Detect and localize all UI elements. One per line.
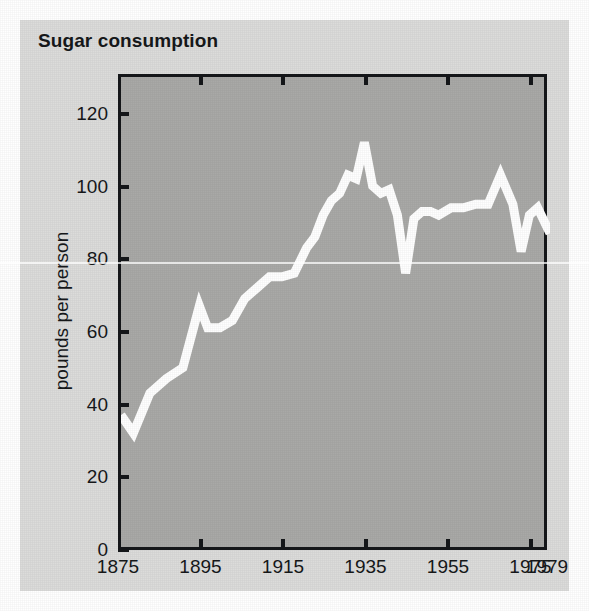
x-tick-mark-top-1935 — [364, 74, 368, 85]
chart-title: Sugar consumption — [38, 30, 218, 52]
y-tick-mark-0 — [118, 548, 129, 552]
x-tick-mark-top-1955 — [446, 74, 450, 85]
x-tick-mark-top-1915 — [281, 74, 285, 85]
y-tick-mark-80 — [118, 257, 129, 261]
x-tick-label-1935: 1935 — [344, 556, 386, 578]
y-tick-mark-60 — [118, 330, 129, 334]
x-tick-label-1955: 1955 — [427, 556, 469, 578]
x-tick-mark-1895 — [199, 539, 203, 550]
y-tick-label-100: 100 — [52, 176, 108, 198]
x-tick-mark-1935 — [364, 539, 368, 550]
x-tick-label-1915: 1915 — [262, 556, 304, 578]
y-tick-mark-40 — [118, 403, 129, 407]
x-tick-label-1875: 1875 — [97, 556, 139, 578]
x-tick-mark-1955 — [446, 539, 450, 550]
figure-page: Sugar consumption pounds per person 0204… — [0, 0, 589, 611]
sugar-consumption-line — [121, 142, 550, 433]
x-tick-mark-top-1975 — [529, 74, 533, 85]
x-tick-mark-top-1895 — [199, 74, 203, 85]
y-tick-mark-100 — [118, 185, 129, 189]
y-tick-label-40: 40 — [52, 394, 108, 416]
x-tick-label-1979: 1979 — [526, 556, 568, 578]
x-tick-mark-1915 — [281, 539, 285, 550]
y-tick-label-20: 20 — [52, 466, 108, 488]
y-tick-mark-20 — [118, 475, 129, 479]
data-line-svg — [121, 77, 550, 553]
y-tick-label-120: 120 — [52, 103, 108, 125]
y-tick-label-80: 80 — [52, 248, 108, 270]
y-tick-mark-120 — [118, 112, 129, 116]
plot-area — [118, 74, 547, 550]
y-tick-label-60: 60 — [52, 321, 108, 343]
x-tick-mark-1975 — [529, 539, 533, 550]
x-tick-label-1895: 1895 — [179, 556, 221, 578]
